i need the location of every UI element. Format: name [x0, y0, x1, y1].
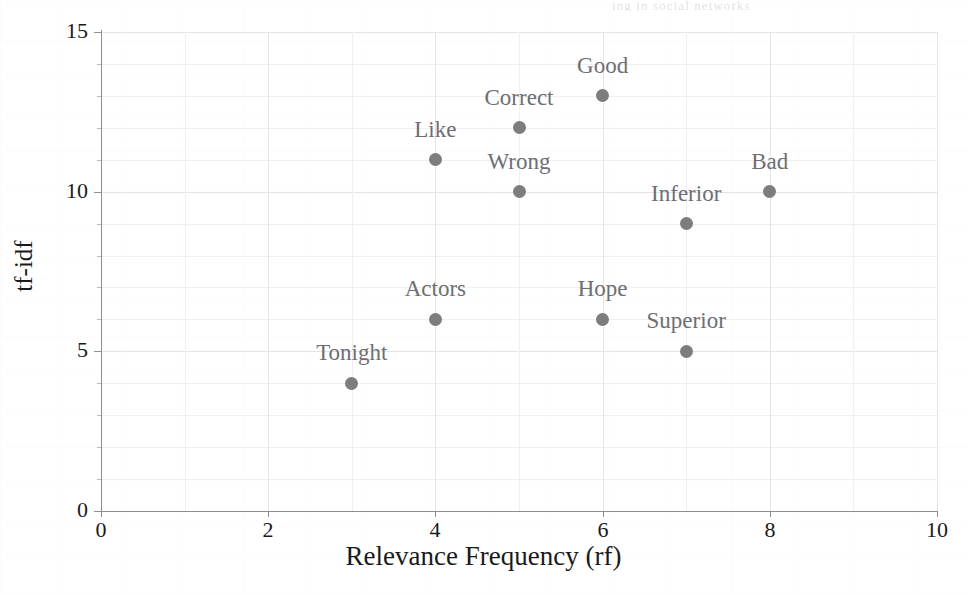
y-axis-tick: [94, 511, 101, 512]
gridline-vertical: [686, 32, 687, 511]
y-axis-minor-tick: [97, 287, 101, 288]
x-axis-tick-label: 10: [897, 519, 967, 541]
data-point[interactable]: [596, 313, 609, 326]
data-point-label: Good: [577, 54, 628, 77]
gridline-vertical: [853, 32, 854, 511]
scatter-chart: TonightLikeActorsCorrectWrongGoodHopeInf…: [0, 0, 967, 596]
y-axis-minor-tick: [97, 256, 101, 257]
y-axis-minor-tick: [97, 128, 101, 129]
data-point-label: Actors: [405, 277, 466, 300]
data-point-label: Wrong: [488, 150, 551, 173]
gridline-vertical: [352, 32, 353, 511]
data-point[interactable]: [429, 153, 442, 166]
data-point[interactable]: [680, 217, 693, 230]
x-axis-tick-label: 2: [228, 519, 308, 541]
data-point[interactable]: [596, 89, 609, 102]
y-axis-tick: [94, 32, 101, 33]
y-axis-tick-label: 5: [0, 339, 88, 361]
gridline-vertical: [435, 32, 436, 511]
data-point-label: Bad: [751, 150, 788, 173]
gridline-vertical: [185, 32, 186, 511]
x-axis-tick-label: 6: [563, 519, 643, 541]
y-axis-minor-tick: [97, 160, 101, 161]
y-axis-minor-tick: [97, 383, 101, 384]
x-axis-tick-label: 4: [395, 519, 475, 541]
data-point[interactable]: [680, 345, 693, 358]
y-axis-minor-tick: [97, 224, 101, 225]
y-axis-tick-label: 15: [0, 20, 88, 42]
y-axis-minor-tick: [97, 64, 101, 65]
data-point[interactable]: [763, 185, 776, 198]
data-point[interactable]: [513, 185, 526, 198]
plot-area: TonightLikeActorsCorrectWrongGoodHopeInf…: [101, 32, 937, 511]
data-point-label: Superior: [647, 309, 726, 332]
data-point-label: Hope: [578, 277, 628, 300]
y-axis-minor-tick: [97, 96, 101, 97]
data-point-label: Tonight: [316, 341, 387, 364]
y-axis-minor-tick: [97, 479, 101, 480]
x-axis-title: Relevance Frequency (rf): [0, 541, 967, 571]
y-axis-minor-tick: [97, 415, 101, 416]
data-point[interactable]: [345, 377, 358, 390]
y-axis-title: tf-idf: [10, 196, 38, 336]
y-axis-tick: [94, 351, 101, 352]
data-point-label: Inferior: [651, 182, 721, 205]
y-axis-minor-tick: [97, 319, 101, 320]
gridline-vertical: [770, 32, 771, 511]
y-axis-tick: [94, 192, 101, 193]
data-point-label: Like: [414, 118, 456, 141]
data-point[interactable]: [429, 313, 442, 326]
gridline-vertical: [603, 32, 604, 511]
x-axis-line: [100, 511, 938, 512]
y-axis-minor-tick: [97, 447, 101, 448]
gridline-vertical: [937, 32, 938, 511]
x-axis-tick-label: 8: [730, 519, 810, 541]
data-point-label: Correct: [485, 86, 554, 109]
data-point[interactable]: [513, 121, 526, 134]
y-axis-tick-label: 0: [0, 499, 88, 521]
x-axis-tick-label: 0: [61, 519, 141, 541]
gridline-vertical: [268, 32, 269, 511]
y-axis-line: [101, 30, 102, 512]
